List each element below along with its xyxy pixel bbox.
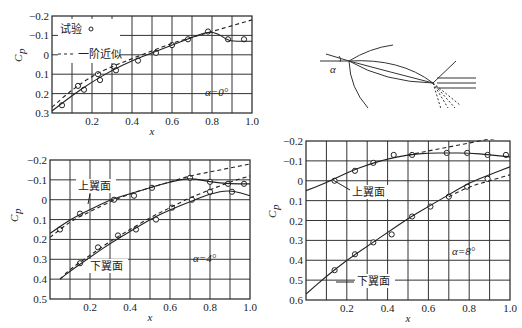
x-tick-label: 0.4 bbox=[125, 115, 139, 127]
data-point-marker bbox=[95, 245, 100, 250]
x-tick-label: 1.0 bbox=[243, 301, 257, 313]
alpha-annotation: α=8° bbox=[452, 245, 476, 257]
x-axis-label: x bbox=[405, 312, 411, 324]
y-tick-label: 0.2 bbox=[35, 88, 49, 100]
y-tick-label: 0.3 bbox=[35, 107, 49, 119]
y-tick-label: −0.1 bbox=[29, 29, 49, 41]
y-tick-label: 0.2 bbox=[289, 215, 303, 227]
x-axis-label: x bbox=[147, 311, 153, 323]
grid bbox=[306, 141, 510, 300]
data-point-marker bbox=[391, 152, 396, 157]
x-tick-label: 0.8 bbox=[205, 115, 219, 127]
y-tick-label: 0.5 bbox=[33, 293, 47, 305]
x-tick-label: 1.0 bbox=[245, 115, 259, 127]
x-tick-label: 1.0 bbox=[503, 302, 517, 314]
y-tick-label: 0.3 bbox=[289, 234, 303, 246]
alpha-annotation: α=4° bbox=[193, 252, 217, 264]
legend-label-approx: 一阶近似 bbox=[78, 47, 122, 61]
legend-label-experiment: 试验 bbox=[60, 22, 82, 36]
y-tick-label: 0 bbox=[42, 194, 48, 206]
legend-marker-icon bbox=[89, 27, 93, 31]
figure-canvas: −0.2−0.100.10.20.30.20.40.60.81.0xCpα=0°… bbox=[0, 0, 522, 328]
y-axis-label: C bbox=[266, 210, 278, 218]
y-axis-label-sub: p bbox=[269, 204, 281, 211]
x-tick-label: 0.4 bbox=[123, 301, 137, 313]
upper-surface-label: 上翼面 bbox=[352, 186, 385, 199]
x-tick-label: 0.6 bbox=[422, 302, 436, 314]
x-tick-label: 0.6 bbox=[163, 301, 177, 313]
x-tick-label: 0.4 bbox=[381, 302, 395, 314]
y-tick-label: −0.1 bbox=[283, 155, 303, 167]
y-tick-label: 0.3 bbox=[33, 253, 47, 265]
approximation-curve bbox=[449, 175, 510, 197]
y-tick-label: 0 bbox=[44, 49, 50, 61]
y-tick-label: −0.1 bbox=[27, 174, 47, 186]
chart-panel-top-left: −0.2−0.100.10.20.30.20.40.60.81.0xCpα=0°… bbox=[12, 10, 259, 137]
x-tick-label: 0.8 bbox=[203, 301, 217, 313]
airfoil-diagram bbox=[320, 45, 476, 109]
y-axis-label: C bbox=[12, 54, 24, 62]
y-tick-label: 0.1 bbox=[35, 68, 49, 80]
approximation-curve bbox=[408, 137, 510, 155]
chart-panel-bottom-left: −0.2−0.100.10.20.30.40.50.20.40.60.81.0x… bbox=[8, 154, 257, 323]
alpha-label: α bbox=[330, 63, 336, 75]
y-axis-label-sub: p bbox=[11, 208, 23, 215]
y-tick-label: 0.4 bbox=[289, 254, 303, 266]
lower-surface-label: 下翼面 bbox=[357, 275, 390, 288]
x-tick-label: 0.6 bbox=[165, 115, 179, 127]
data-point-marker bbox=[131, 193, 136, 198]
upper-surface-label: 上翼面 bbox=[78, 180, 111, 193]
y-tick-label: −0.2 bbox=[29, 10, 49, 22]
y-axis-label-sub: p bbox=[15, 48, 27, 55]
x-tick-label: 0.2 bbox=[85, 115, 99, 127]
x-axis-label: x bbox=[149, 125, 155, 137]
alpha-annotation: α=0° bbox=[205, 86, 229, 98]
y-tick-label: 0.6 bbox=[289, 294, 303, 306]
y-tick-label: 0.4 bbox=[33, 273, 47, 285]
data-point-marker bbox=[205, 29, 210, 34]
y-tick-label: 0.1 bbox=[33, 214, 47, 226]
y-tick-label: 0.5 bbox=[289, 274, 303, 286]
y-tick-label: −0.2 bbox=[283, 135, 303, 147]
y-tick-label: 0 bbox=[298, 175, 304, 187]
y-axis-label: C bbox=[8, 214, 20, 222]
leader-line bbox=[333, 180, 350, 190]
y-tick-label: −0.2 bbox=[27, 154, 47, 166]
y-tick-label: 0.2 bbox=[33, 233, 47, 245]
x-tick-label: 0.2 bbox=[83, 301, 97, 313]
x-tick-label: 0.2 bbox=[340, 302, 354, 314]
chart-panel-bottom-right: −0.2−0.100.10.20.30.40.50.60.20.40.60.81… bbox=[266, 135, 517, 324]
x-tick-label: 0.8 bbox=[462, 302, 476, 314]
lower-surface-label: 下翼面 bbox=[90, 260, 123, 273]
data-point-marker bbox=[389, 232, 394, 237]
y-tick-label: 0.1 bbox=[289, 195, 303, 207]
